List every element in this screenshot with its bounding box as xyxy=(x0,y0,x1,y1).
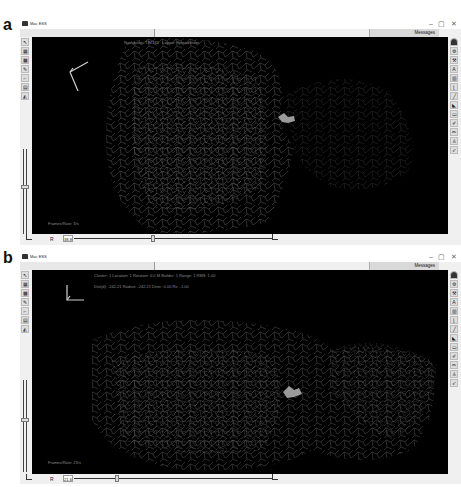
chart-icon[interactable]: ⌐ xyxy=(21,74,29,82)
resize-corner-left xyxy=(26,234,32,240)
vertical-slider[interactable] xyxy=(23,149,27,237)
line-icon[interactable]: ╱ xyxy=(450,325,458,333)
frame-icon[interactable]: ▭ xyxy=(450,343,458,351)
window-title: Mac ESS xyxy=(30,21,47,26)
status-overlay-distance: Dist(d): -242.21 Radius: -242.21 Direc: … xyxy=(94,284,189,289)
messages-button[interactable]: Messages xyxy=(369,29,439,37)
play-icon[interactable]: ◣ xyxy=(450,101,458,109)
status-overlay-top: Cluster: 1 Location: 1 Rotation: 0.0 M B… xyxy=(94,273,215,278)
left-toolbar: ↖ ▦ ▩ ✎ ⌐ ▤ ◭ xyxy=(20,270,30,334)
molecule-viewport[interactable]: Cluster: 1 Location: 1 Rotation: 0.0 M B… xyxy=(32,270,448,474)
checker-icon[interactable]: ▩ xyxy=(21,56,29,64)
pen-alt-icon[interactable]: ✏ xyxy=(450,361,458,369)
resize-corner-right xyxy=(272,474,278,480)
tool-icon[interactable]: ⚒ xyxy=(450,56,458,64)
bottom-bar: R 38.8 xyxy=(20,234,461,244)
left-toolbar: ↖ ▦ ▩ ✎ ⌐ ▤ ◭ xyxy=(20,37,30,101)
table-icon[interactable]: ▤ xyxy=(21,316,29,324)
chart-bars-icon[interactable]: ▥ xyxy=(450,74,458,82)
shape-icon[interactable]: ◭ xyxy=(21,92,29,100)
letter-icon[interactable]: A xyxy=(450,65,458,73)
right-toolbar: ● ⚙ ⚒ A ▥ ⌊ ╱ ◣ ▭ ✐ ✏ ♙ ➶ xyxy=(449,270,459,388)
user-icon[interactable]: ● xyxy=(450,38,458,46)
minimize-button[interactable]: – xyxy=(429,19,433,29)
pencil-icon[interactable]: ✎ xyxy=(21,298,29,306)
bracket-icon[interactable]: ⌊ xyxy=(450,83,458,91)
resize-corner-right xyxy=(272,234,278,240)
play-icon[interactable]: ◣ xyxy=(450,334,458,342)
molecule-structure xyxy=(32,37,448,234)
app-icon xyxy=(22,254,28,259)
status-overlay-top: Navigation: TIM133 · Layout: Spreadsheet xyxy=(124,40,199,45)
panel-label-b: b xyxy=(3,249,13,267)
axis-indicator xyxy=(67,285,84,300)
line-icon[interactable]: ╱ xyxy=(450,92,458,100)
maximize-button[interactable]: ▢ xyxy=(438,252,445,262)
radius-slider-track[interactable] xyxy=(74,478,272,479)
app-window-a: Mac ESS – ▢ ✕ ➚ File Controls Graphics M… xyxy=(20,19,461,245)
cursor-icon[interactable]: ➶ xyxy=(450,379,458,387)
messages-button[interactable]: Messages xyxy=(369,262,439,270)
vertical-slider[interactable] xyxy=(23,380,27,472)
gear-icon[interactable]: ⚙ xyxy=(450,47,458,55)
frame-icon[interactable]: ▭ xyxy=(450,110,458,118)
frame-rate-label: Frames/Rate: 23/s xyxy=(48,460,81,465)
title-bar: Mac ESS – ▢ ✕ xyxy=(20,19,461,29)
window-title: Mac ESS xyxy=(30,254,47,259)
maximize-button[interactable]: ▢ xyxy=(438,19,445,29)
pen-alt-icon[interactable]: ✏ xyxy=(450,128,458,136)
axis-indicator xyxy=(70,62,88,91)
grid-icon[interactable]: ▦ xyxy=(21,280,29,288)
molecule-structure xyxy=(32,270,448,474)
person-icon[interactable]: ♙ xyxy=(450,137,458,145)
tool-icon[interactable]: ⚒ xyxy=(450,289,458,297)
panel-label-a: a xyxy=(3,16,12,34)
radius-slider-thumb[interactable] xyxy=(115,475,119,482)
letter-icon[interactable]: A xyxy=(450,298,458,306)
app-window-b: Mac ESS – ▢ ✕ ➚ File Controls Graphics M… xyxy=(20,252,461,484)
radius-value[interactable]: 21.6 xyxy=(63,475,73,482)
pen-icon[interactable]: ✐ xyxy=(450,352,458,360)
arrow-icon[interactable]: ↖ xyxy=(21,38,29,46)
radius-slider-track[interactable] xyxy=(74,238,272,239)
checker-icon[interactable]: ▩ xyxy=(21,289,29,297)
user-icon[interactable]: ● xyxy=(450,271,458,279)
pencil-icon[interactable]: ✎ xyxy=(21,65,29,73)
arrow-icon[interactable]: ↖ xyxy=(21,271,29,279)
app-icon xyxy=(22,21,28,26)
radius-slider-thumb[interactable] xyxy=(151,235,155,242)
minimize-button[interactable]: – xyxy=(429,252,433,262)
person-icon[interactable]: ♙ xyxy=(450,370,458,378)
title-bar: Mac ESS – ▢ ✕ xyxy=(20,252,461,262)
chart-bars-icon[interactable]: ▥ xyxy=(450,307,458,315)
close-button[interactable]: ✕ xyxy=(451,252,457,262)
chart-icon[interactable]: ⌐ xyxy=(21,307,29,315)
frame-rate-label: Frames/Rate: 3/s xyxy=(48,221,79,226)
pen-icon[interactable]: ✐ xyxy=(450,119,458,127)
table-icon[interactable]: ▤ xyxy=(21,83,29,91)
resize-corner-left xyxy=(26,474,32,480)
grid-icon[interactable]: ▦ xyxy=(21,47,29,55)
bracket-icon[interactable]: ⌊ xyxy=(450,316,458,324)
molecule-viewport[interactable]: Navigation: TIM133 · Layout: Spreadsheet… xyxy=(32,37,448,234)
radius-label: R xyxy=(50,476,54,482)
close-button[interactable]: ✕ xyxy=(451,19,457,29)
radius-value[interactable]: 38.8 xyxy=(63,235,73,242)
bottom-bar: R 21.6 xyxy=(20,474,461,484)
vertical-slider-thumb[interactable] xyxy=(21,418,29,422)
right-toolbar: ● ⚙ ⚒ A ▥ ⌊ ╱ ◣ ▭ ✐ ✏ ♙ ➶ xyxy=(449,37,459,155)
gear-icon[interactable]: ⚙ xyxy=(450,280,458,288)
radius-label: R xyxy=(50,236,54,242)
vertical-slider-thumb[interactable] xyxy=(21,185,29,189)
shape-icon[interactable]: ◭ xyxy=(21,325,29,333)
cursor-icon[interactable]: ➶ xyxy=(450,146,458,154)
